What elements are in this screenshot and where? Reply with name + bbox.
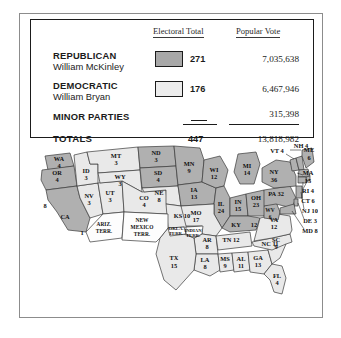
- label-nd-abbr: ND: [151, 149, 161, 156]
- label-ne-votes: 8: [157, 196, 160, 203]
- column-header-popular-vote: Popular Vote: [236, 26, 280, 38]
- label-ca-votes: 8: [43, 202, 46, 209]
- results-table: Electoral Total Popular Vote REPUBLICAN …: [30, 19, 314, 138]
- column-header-electoral-total: Electoral Total: [153, 26, 204, 38]
- label-ga-votes: 13: [255, 261, 261, 268]
- label-oklahoma-terr-line2: TERR.: [169, 231, 183, 236]
- label-id-abbr: ID: [82, 167, 89, 174]
- label-ia-abbr: IA: [190, 186, 197, 193]
- label-new-mexico-terr-line2: MEXICO: [131, 224, 154, 230]
- label-fl-abbr: FL: [273, 272, 281, 279]
- label-al-votes: 11: [238, 262, 244, 269]
- label-ut-abbr: UT: [106, 189, 116, 196]
- label-mt-votes: 3: [114, 159, 117, 166]
- label-ca-abbr: CA: [60, 213, 70, 220]
- electoral-map: WA 4 OR 4 CA 8 NV 3 ID 3 UT 3 MT 3 WY 3 …: [24, 142, 318, 310]
- label-pa: PA 32: [268, 190, 284, 197]
- label-arizona-terr-line2: TERR.: [96, 228, 113, 234]
- label-tn: TN 12: [223, 236, 240, 243]
- candidate-name-republican: William McKinley: [53, 61, 124, 72]
- popular-votes-republican: 7,035,638: [229, 54, 299, 64]
- electoral-votes-democratic: 176: [190, 84, 205, 94]
- label-ks: KS 10: [174, 212, 191, 219]
- label-indian-terr-line2: TERR.: [186, 233, 200, 238]
- label-mi-votes: 14: [244, 169, 251, 176]
- label-ny: NY: [269, 168, 279, 175]
- leader-line-vt: [286, 154, 294, 159]
- label-de: DE 3: [303, 217, 317, 224]
- label-nd-votes: 3: [154, 156, 157, 163]
- label-new-mexico-terr-line1: NEW: [136, 217, 149, 223]
- party-name-republican: REPUBLICAN: [53, 50, 116, 61]
- popular-votes-minor-parties: 315,398: [229, 109, 299, 119]
- electoral-votes-minor-parties-dash: [191, 120, 207, 121]
- label-arizona-votes: 1: [80, 229, 83, 236]
- label-wv-abbr: WV: [265, 207, 274, 213]
- label-or-abbr: OR: [52, 169, 62, 176]
- infographic-page: Electoral Total Popular Vote REPUBLICAN …: [0, 0, 341, 338]
- table-rule-electoral: [183, 124, 217, 125]
- label-mn-abbr: MN: [184, 160, 195, 167]
- label-wi-votes: 12: [211, 173, 217, 180]
- label-tx-votes: 15: [171, 262, 177, 269]
- label-wa-abbr: WA: [54, 155, 65, 162]
- label-in-abbr: IN: [234, 198, 241, 205]
- label-il-abbr: IL: [218, 200, 225, 207]
- label-ri: RI 4: [302, 187, 315, 194]
- electoral-map-svg: WA 4 OR 4 CA 8 NV 3 ID 3 UT 3 MT 3 WY 3 …: [24, 142, 318, 310]
- label-sc-votes: 9: [274, 243, 277, 250]
- label-ne-abbr: NE: [155, 189, 164, 196]
- color-swatch-republican: [155, 51, 183, 67]
- label-va-votes: 12: [271, 223, 277, 230]
- label-nv-votes: 3: [87, 199, 90, 206]
- label-wv-votes: 6: [269, 214, 272, 220]
- label-ar-votes: 8: [205, 243, 208, 250]
- label-new-mexico-terr-line3: TERR.: [134, 231, 151, 237]
- label-vt: VT 4: [270, 147, 284, 154]
- label-wy-votes: 3: [118, 180, 121, 187]
- state-shape-de: [294, 199, 298, 206]
- label-la-abbr: LA: [201, 256, 210, 263]
- label-il-votes: 24: [218, 207, 225, 214]
- label-sd-abbr: SD: [154, 169, 163, 176]
- popular-votes-democratic: 6,467,946: [229, 84, 299, 94]
- label-oh-votes: 23: [253, 201, 259, 208]
- label-nj: NJ 10: [302, 207, 318, 214]
- label-ky-abbr: KY: [231, 221, 241, 228]
- label-ny-votes: 36: [271, 176, 278, 183]
- label-ct: CT 6: [301, 197, 315, 204]
- label-md: MD 8: [302, 227, 317, 234]
- label-mn-votes: 9: [187, 167, 190, 174]
- label-la-votes: 8: [203, 263, 206, 270]
- label-ia-votes: 13: [191, 193, 197, 200]
- label-nv-abbr: NV: [84, 192, 94, 199]
- label-me: ME: [304, 146, 314, 153]
- party-name-minor-parties: MINOR PARTIES: [53, 111, 129, 122]
- electoral-votes-republican: 271: [190, 54, 205, 64]
- label-mo-votes: 17: [193, 216, 200, 223]
- color-swatch-democratic: [155, 81, 183, 97]
- label-oh-abbr: OH: [251, 194, 261, 201]
- label-mo-abbr: MO: [190, 209, 201, 216]
- party-name-democratic: DEMOCRATIC: [53, 80, 118, 91]
- label-ut-votes: 3: [108, 196, 111, 203]
- label-ms-abbr: MS: [220, 255, 230, 262]
- label-wi-abbr: WI: [210, 166, 219, 173]
- table-rule-popular: [229, 124, 299, 125]
- label-wy-abbr: WY: [114, 173, 125, 180]
- candidate-name-democratic: William Bryan: [53, 91, 110, 102]
- label-sc-abbr: SC: [272, 236, 281, 243]
- label-co-abbr: CO: [139, 194, 149, 201]
- label-mt-abbr: MT: [111, 152, 122, 159]
- label-mi-abbr: MI: [243, 162, 252, 169]
- label-ms-votes: 9: [223, 262, 226, 269]
- label-tx-abbr: TX: [170, 254, 179, 261]
- label-arizona-terr-line1: ARIZ.: [97, 221, 112, 227]
- label-id-votes: 3: [84, 174, 87, 181]
- label-al-abbr: AL: [237, 255, 246, 262]
- label-ar-abbr: AR: [202, 236, 212, 243]
- label-ga-abbr: GA: [253, 254, 263, 261]
- label-ky-votes: 12: [251, 221, 257, 228]
- label-ma: MA: [303, 169, 314, 176]
- label-in-votes: 15: [235, 205, 241, 212]
